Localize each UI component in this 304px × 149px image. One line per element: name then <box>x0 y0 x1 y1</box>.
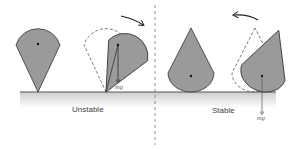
center-of-mass-dot <box>37 43 39 45</box>
center-of-mass-dot <box>117 44 119 46</box>
stable-cone-upright <box>168 28 214 92</box>
ground-surface <box>20 92 276 108</box>
unstable-cone-tilted <box>87 26 156 103</box>
stable-cone-tilted <box>235 22 300 98</box>
center-of-mass-dot <box>190 75 192 77</box>
unstable-cone-upright <box>16 29 60 92</box>
stability-diagram <box>0 0 304 149</box>
mg-label-left: mg <box>115 83 123 90</box>
stable-label: Stable <box>212 106 235 115</box>
counterclockwise-arrow-icon <box>234 15 258 20</box>
clockwise-arrow-icon <box>121 16 143 25</box>
unstable-label: Unstable <box>72 105 104 114</box>
mg-label-right: mg <box>257 114 265 121</box>
